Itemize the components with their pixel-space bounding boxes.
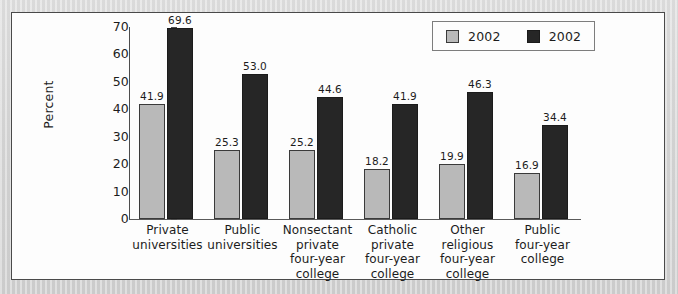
bar-series2[interactable]: 46.3 bbox=[467, 92, 493, 219]
x-category-line: universities bbox=[128, 238, 207, 253]
x-category-line: college bbox=[428, 267, 507, 282]
bar-series1[interactable]: 25.3 bbox=[214, 150, 240, 219]
bar-series1[interactable]: 18.2 bbox=[364, 169, 390, 219]
bar-series2[interactable]: 41.9 bbox=[392, 104, 418, 219]
x-category-line: private bbox=[353, 238, 432, 253]
x-category-line: Catholic bbox=[353, 223, 432, 238]
bar-value-label: 53.0 bbox=[243, 60, 267, 72]
y-tick-label: 40 bbox=[83, 101, 129, 116]
x-category-label: Nonsectant private four-year college bbox=[278, 223, 357, 281]
x-category-line: four-year bbox=[353, 252, 432, 267]
bar-value-label: 41.9 bbox=[393, 90, 417, 102]
bar-series2[interactable]: 53.0 bbox=[242, 74, 268, 219]
bar-value-label: 25.2 bbox=[290, 136, 314, 148]
x-category-line: four-year bbox=[428, 252, 507, 267]
legend-item[interactable]: 2002 bbox=[527, 29, 582, 44]
legend-label: 2002 bbox=[468, 29, 501, 44]
x-category-line: four-year bbox=[278, 252, 357, 267]
x-category-label: Private universities bbox=[128, 223, 207, 252]
y-tick-mark bbox=[171, 219, 177, 220]
bar-series2[interactable]: 69.6 bbox=[167, 28, 193, 219]
bar-groups: 41.9 69.6 25.3 53.0 25.2 44.6 bbox=[130, 27, 581, 219]
bar-group: 16.9 34.4 bbox=[505, 27, 580, 219]
bar-group: 25.2 44.6 bbox=[280, 27, 355, 219]
y-tick-label: 60 bbox=[83, 46, 129, 61]
chart-figure-panel: Percent 0 10 20 30 40 50 60 bbox=[11, 12, 665, 280]
x-category-line: four-year bbox=[503, 238, 582, 253]
bar-value-label: 18.2 bbox=[365, 155, 389, 167]
x-category-line: Public bbox=[203, 223, 282, 238]
legend-swatch-light-icon bbox=[446, 30, 459, 43]
x-category-line: Nonsectant bbox=[278, 223, 357, 238]
bar-series2[interactable]: 34.4 bbox=[542, 125, 568, 219]
bar-value-label: 69.6 bbox=[168, 14, 192, 26]
bar-group: 18.2 41.9 bbox=[355, 27, 430, 219]
bar-value-label: 34.4 bbox=[543, 111, 567, 123]
x-category-line: college bbox=[353, 267, 432, 282]
x-category-line: private bbox=[278, 238, 357, 253]
x-category-line: universities bbox=[203, 238, 282, 253]
x-axis-line bbox=[129, 219, 581, 220]
bar-series1[interactable]: 16.9 bbox=[514, 173, 540, 219]
y-tick-label: 10 bbox=[83, 184, 129, 199]
bar-series1[interactable]: 41.9 bbox=[139, 104, 165, 219]
bar-value-label: 19.9 bbox=[440, 150, 464, 162]
x-category-label: Public four-year college bbox=[503, 223, 582, 267]
x-category-label: Catholic private four-year college bbox=[353, 223, 432, 281]
y-tick-label: 70 bbox=[83, 19, 129, 34]
bar-value-label: 46.3 bbox=[468, 78, 492, 90]
bar-value-label: 25.3 bbox=[215, 136, 239, 148]
legend-item[interactable]: 2002 bbox=[446, 29, 501, 44]
bar-series1[interactable]: 19.9 bbox=[439, 164, 465, 219]
x-axis-category-labels: Private universities Public universities… bbox=[130, 223, 581, 279]
legend-label: 2002 bbox=[549, 29, 582, 44]
y-tick-label: 0 bbox=[83, 211, 129, 226]
y-tick-label: 50 bbox=[83, 74, 129, 89]
x-category-line: Other bbox=[428, 223, 507, 238]
x-category-line: Private bbox=[128, 223, 207, 238]
y-tick-label: 20 bbox=[83, 156, 129, 171]
bar-group: 19.9 46.3 bbox=[430, 27, 505, 219]
y-tick-label: 30 bbox=[83, 129, 129, 144]
bar-value-label: 44.6 bbox=[318, 83, 342, 95]
x-category-line: religious bbox=[428, 238, 507, 253]
bar-series2[interactable]: 44.6 bbox=[317, 97, 343, 219]
y-axis-title: Percent bbox=[41, 60, 56, 150]
bar-group: 25.3 53.0 bbox=[205, 27, 280, 219]
bar-value-label: 41.9 bbox=[140, 90, 164, 102]
x-category-label: Public universities bbox=[203, 223, 282, 252]
chart-legend: 2002 2002 bbox=[432, 21, 595, 51]
plot-area: Percent 0 10 20 30 40 50 60 bbox=[12, 13, 664, 279]
x-category-label: Other religious four-year college bbox=[428, 223, 507, 281]
x-category-line: college bbox=[503, 252, 582, 267]
x-category-line: Public bbox=[503, 223, 582, 238]
bar-series1[interactable]: 25.2 bbox=[289, 150, 315, 219]
legend-swatch-dark-icon bbox=[527, 30, 540, 43]
x-category-line: college bbox=[278, 267, 357, 282]
bar-value-label: 16.9 bbox=[515, 159, 539, 171]
bar-group: 41.9 69.6 bbox=[130, 27, 205, 219]
